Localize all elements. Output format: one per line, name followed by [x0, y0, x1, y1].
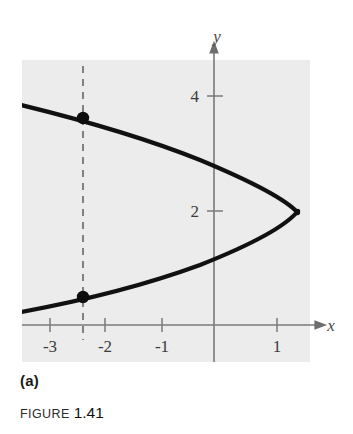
graph-plot-area: -3 -2 -1 1 4 2 x y — [0, 0, 353, 434]
figure-1-41: -3 -2 -1 1 4 2 x y (a) FIGURE1.41 — [0, 0, 353, 434]
intersection-point-lower — [77, 291, 89, 303]
x-tick-label--3: -3 — [43, 337, 57, 356]
x-axis-label: x — [326, 316, 335, 335]
y-axis-label: y — [211, 27, 221, 46]
x-tick-label-1: 1 — [273, 337, 282, 356]
x-tick-label--2: -2 — [98, 337, 112, 356]
intersection-point-upper — [77, 112, 89, 124]
x-tick-label--1: -1 — [155, 337, 169, 356]
y-tick-label-2: 2 — [191, 202, 200, 221]
plot-panel-background — [22, 60, 310, 362]
y-tick-label-4: 4 — [191, 87, 200, 106]
